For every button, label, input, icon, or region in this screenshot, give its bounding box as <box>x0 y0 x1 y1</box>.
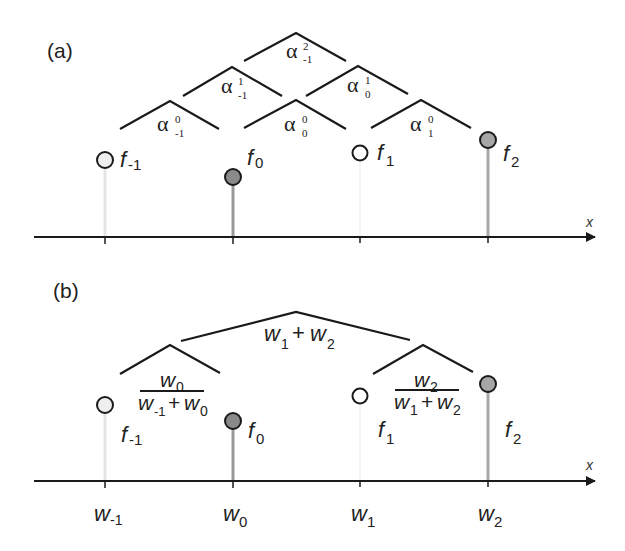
svg-text:+: + <box>292 320 305 345</box>
alpha-1-0: α <box>347 72 359 97</box>
right-fraction: w 2 w 1 + w 2 <box>394 368 461 418</box>
alpha-0-m1-sub: -1 <box>175 127 184 139</box>
label-f-2-sub: 2 <box>511 153 519 170</box>
label-b-f-2-sub: 2 <box>513 430 521 447</box>
svg-text:1: 1 <box>410 402 418 418</box>
alpha-0-0-sub: 0 <box>302 127 308 139</box>
sample-b-f-0 <box>225 413 241 429</box>
svg-text:w: w <box>310 321 328 346</box>
label-b-f-0-sub: 0 <box>256 430 264 447</box>
top-sum-label: w 1 + w 2 <box>264 320 335 352</box>
tick-label-w-2-sub: 2 <box>494 513 502 530</box>
svg-text:w: w <box>184 391 201 414</box>
stems-a <box>105 148 488 237</box>
sample-f-0 <box>225 169 241 185</box>
alpha-0-1-sub: 1 <box>428 127 434 139</box>
panel-a: (a) α 2 -1 α 1 -1 α 1 0 <box>34 33 595 244</box>
svg-text:0: 0 <box>200 403 208 419</box>
sample-f-m1 <box>97 152 113 168</box>
svg-text:+: + <box>168 391 180 414</box>
samples-a <box>97 132 496 185</box>
left-fraction: w 0 w -1 + w 0 <box>138 368 208 419</box>
x-axis-label-b: x <box>585 457 594 473</box>
tick-label-w-1-sub: 1 <box>367 513 375 530</box>
sample-f-1 <box>353 146 368 161</box>
label-f-1: f <box>377 140 386 165</box>
alpha-1-m1-sup: 1 <box>238 75 244 87</box>
svg-text:1: 1 <box>281 336 289 352</box>
ticks-a <box>105 237 488 244</box>
svg-text:w: w <box>264 321 282 346</box>
label-f-1-sub: 1 <box>386 152 394 169</box>
svg-text:w: w <box>138 391 155 414</box>
sample-f-2 <box>480 132 496 148</box>
alpha-2-m1-sub: -1 <box>303 53 312 65</box>
panel-a-label: (a) <box>47 39 73 62</box>
sample-b-f-2 <box>480 376 496 392</box>
alpha-1-m1: α <box>221 73 233 98</box>
caret-level0-left <box>120 101 219 129</box>
label-b-f-m1-sub: -1 <box>129 431 142 448</box>
sample-b-f-1 <box>353 389 368 404</box>
coefficient-labels: α 2 -1 α 1 -1 α 1 0 α 0 -1 α 0 0 <box>157 38 434 139</box>
label-b-f-1-sub: 1 <box>386 430 394 447</box>
panel-b-label: (b) <box>53 279 79 302</box>
svg-text:w: w <box>437 390 454 413</box>
alpha-0-0: α <box>284 111 296 136</box>
alpha-0-m1-sup: 0 <box>175 113 181 125</box>
svg-text:+: + <box>421 390 433 413</box>
panel-b: (b) w 1 + w 2 w 0 w -1 + w 0 w <box>34 279 595 530</box>
alpha-0-1-sup: 0 <box>428 113 434 125</box>
wavelet-lifting-diagram: (a) α 2 -1 α 1 -1 α 1 0 <box>0 0 625 551</box>
label-f-m1-sub: -1 <box>128 156 141 173</box>
tick-labels-b: w -1 w 0 w 1 w 2 <box>94 501 502 530</box>
alpha-0-1: α <box>410 111 422 136</box>
ticks-b <box>105 481 488 488</box>
svg-text:w: w <box>394 390 411 413</box>
svg-text:2: 2 <box>327 336 335 352</box>
alpha-1-0-sup: 1 <box>365 74 371 86</box>
sample-b-f-m1 <box>97 397 113 413</box>
alpha-2-m1: α <box>286 38 298 63</box>
x-axis-label-a: x <box>585 214 594 230</box>
tick-label-w-m1-sub: -1 <box>110 512 123 528</box>
svg-text:w: w <box>160 368 177 391</box>
alpha-0-0-sup: 0 <box>302 113 308 125</box>
alpha-1-0-sub: 0 <box>365 88 371 100</box>
alpha-2-m1-sup: 2 <box>303 40 309 52</box>
alpha-1-m1-sub: -1 <box>238 89 247 101</box>
label-f-0-sub: 0 <box>255 154 263 171</box>
svg-text:-1: -1 <box>154 404 166 419</box>
svg-text:2: 2 <box>453 402 461 418</box>
tick-label-w-0-sub: 0 <box>239 513 247 530</box>
alpha-0-m1: α <box>157 111 169 136</box>
svg-text:w: w <box>414 368 431 391</box>
